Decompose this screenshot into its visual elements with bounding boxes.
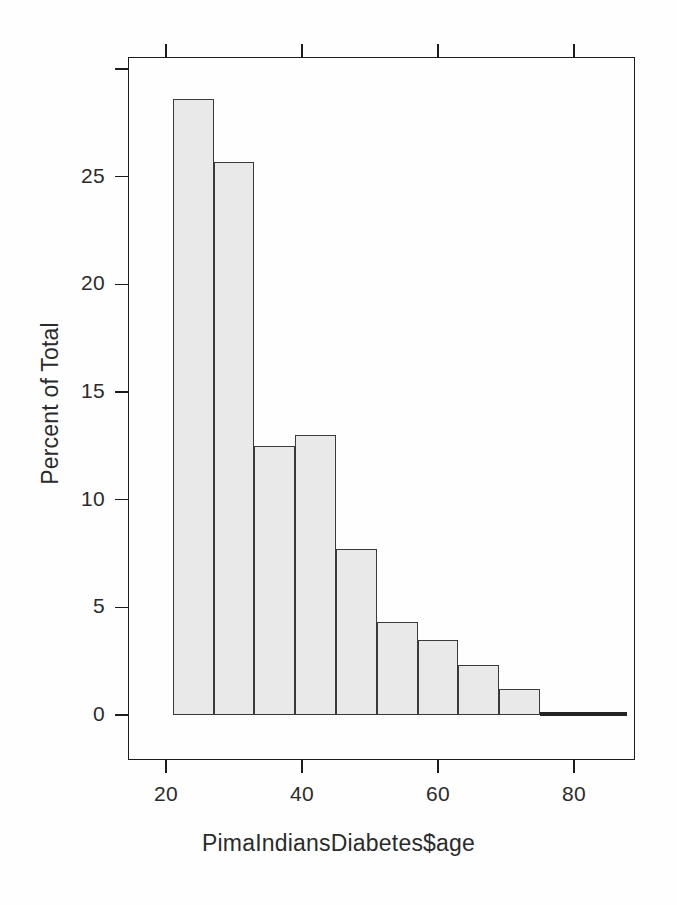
x-axis-label: PimaIndiansDiabetes$age — [0, 830, 677, 857]
y-axis-tick-label: 25 — [45, 164, 105, 188]
histogram-bar — [214, 162, 255, 715]
y-axis-tick-label: 0 — [45, 702, 105, 726]
x-axis-tick-top — [573, 44, 575, 57]
x-axis-tick-label: 20 — [131, 782, 201, 806]
x-axis-tick-top — [301, 44, 303, 57]
histogram-bar — [418, 640, 459, 715]
histogram-bar — [336, 549, 377, 715]
y-axis-tick — [115, 68, 128, 70]
x-axis-tick — [165, 760, 167, 773]
histogram-bar — [377, 622, 418, 715]
x-axis-tick — [301, 760, 303, 773]
y-axis-tick — [115, 714, 128, 716]
y-axis-tick — [115, 499, 128, 501]
plot-area — [128, 57, 635, 760]
y-axis-tick — [115, 284, 128, 286]
y-axis-label: Percent of Total — [37, 254, 64, 554]
y-axis-tick — [115, 391, 128, 393]
x-axis-tick — [573, 760, 575, 773]
y-axis-tick — [115, 176, 128, 178]
histogram-bar — [540, 712, 627, 716]
histogram-bar — [499, 689, 540, 715]
x-axis-tick-label: 80 — [539, 782, 609, 806]
x-axis-tick-top — [437, 44, 439, 57]
y-axis-tick — [115, 607, 128, 609]
histogram-figure: 051015202520406080 PimaIndiansDiabetes$a… — [0, 0, 677, 905]
x-axis-tick-label: 40 — [267, 782, 337, 806]
x-axis-tick-label: 60 — [403, 782, 473, 806]
histogram-bar — [458, 665, 499, 715]
x-axis-tick — [437, 760, 439, 773]
histogram-bar — [295, 435, 336, 715]
x-axis-tick-top — [165, 44, 167, 57]
histogram-bar — [254, 446, 295, 715]
y-axis-tick-label: 5 — [45, 594, 105, 618]
histogram-bar — [173, 99, 214, 715]
